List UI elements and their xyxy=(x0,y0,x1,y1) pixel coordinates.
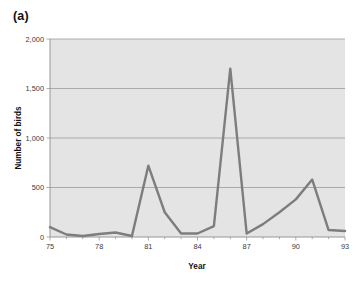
x-tick-label: 75 xyxy=(46,242,54,251)
x-tick-label: 81 xyxy=(144,242,152,251)
y-tick-label: 500 xyxy=(32,183,44,192)
y-tick-label: 0 xyxy=(40,233,44,242)
y-axis-title: Number of birds xyxy=(14,106,23,170)
y-tick-label: 2,000 xyxy=(26,35,45,44)
figure-container: (a) 05001,0001,5002,000 75788184879093 Y… xyxy=(0,0,363,284)
y-axis-ticks: 05001,0001,5002,000 xyxy=(26,35,51,242)
x-tick-label: 93 xyxy=(341,242,349,251)
x-tick-label: 78 xyxy=(95,242,103,251)
y-tick-label: 1,000 xyxy=(26,134,45,143)
x-axis-title: Year xyxy=(188,262,206,271)
x-tick-label: 84 xyxy=(193,242,201,251)
line-chart: 05001,0001,5002,000 75788184879093 Year … xyxy=(0,0,363,284)
x-tick-label: 87 xyxy=(243,242,251,251)
y-tick-label: 1,500 xyxy=(26,84,45,93)
x-axis-ticks: 75788184879093 xyxy=(46,237,349,251)
x-tick-label: 90 xyxy=(292,242,300,251)
